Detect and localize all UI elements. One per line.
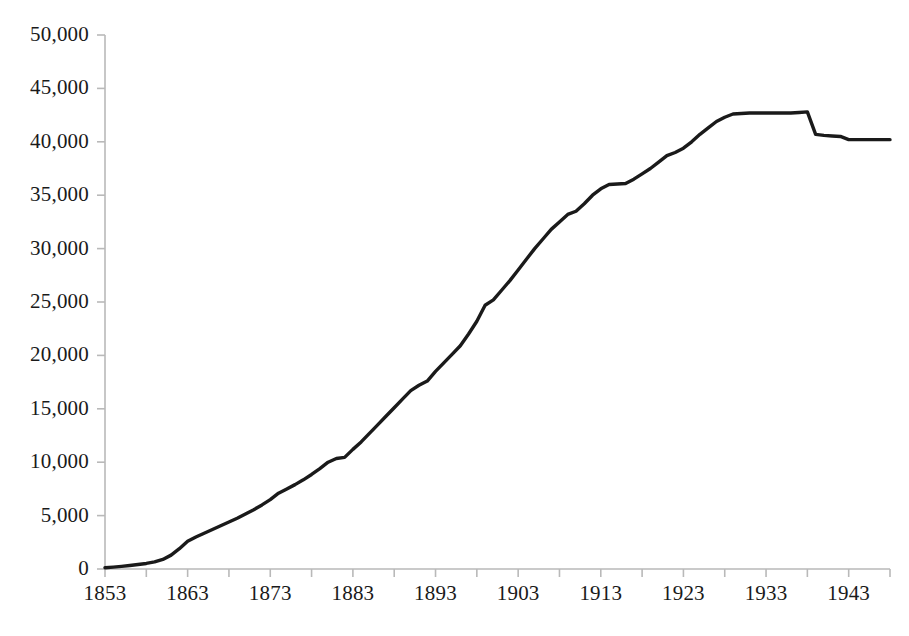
y-axis-tick-label: 30,000: [0, 238, 89, 259]
y-axis-tick-marks: [97, 35, 105, 569]
x-axis-tick-marks: [105, 569, 890, 577]
y-axis-tick-label: 20,000: [0, 344, 89, 365]
y-axis-tick-label: 45,000: [0, 77, 89, 98]
y-axis-tick-label: 50,000: [0, 24, 89, 45]
x-axis-tick-label: 1923: [643, 583, 723, 604]
y-axis-tick-label: 35,000: [0, 184, 89, 205]
chart-plot-area: [0, 0, 909, 636]
x-axis-tick-label: 1863: [148, 583, 228, 604]
y-axis-tick-label: 10,000: [0, 451, 89, 472]
y-axis-tick-label: 5,000: [0, 505, 89, 526]
x-axis-tick-label: 1873: [230, 583, 310, 604]
x-axis-tick-label: 1933: [726, 583, 806, 604]
x-axis-tick-label: 1913: [561, 583, 641, 604]
axis-lines: [105, 35, 890, 569]
y-axis-tick-label: 40,000: [0, 131, 89, 152]
x-axis-tick-label: 1903: [478, 583, 558, 604]
data-series-line: [105, 112, 890, 568]
y-axis-tick-label: 0: [0, 558, 89, 579]
y-axis-tick-label: 15,000: [0, 398, 89, 419]
line-chart: 05,00010,00015,00020,00025,00030,00035,0…: [0, 0, 909, 636]
x-axis-tick-label: 1883: [313, 583, 393, 604]
x-axis-tick-label: 1853: [65, 583, 145, 604]
y-axis-tick-label: 25,000: [0, 291, 89, 312]
x-axis-tick-label: 1943: [809, 583, 889, 604]
x-axis-tick-label: 1893: [396, 583, 476, 604]
